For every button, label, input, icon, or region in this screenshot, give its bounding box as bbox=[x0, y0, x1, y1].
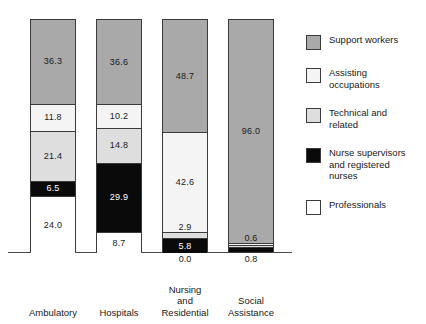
below-axis-value-social-assistance: 0.8 bbox=[228, 254, 274, 264]
segment-value-label: 11.8 bbox=[44, 113, 62, 122]
legend-label-line: Support workers bbox=[329, 34, 398, 46]
nurse-supervisors-swatch bbox=[306, 148, 321, 163]
segment-assisting-occupations-nursing-and-residential: 42.6 bbox=[163, 133, 207, 232]
bar-social-assistance: 96.00.6 bbox=[228, 19, 274, 252]
legend-item-support-workers[interactable]: Support workers bbox=[306, 34, 424, 50]
segment-value-label: 8.7 bbox=[112, 239, 125, 248]
assisting-occupations-swatch bbox=[306, 68, 321, 83]
category-label-line: Nursing bbox=[142, 284, 228, 296]
legend-item-label: Professionals bbox=[329, 199, 386, 211]
legend-item-professionals[interactable]: Professionals bbox=[306, 199, 424, 215]
segment-value-label: 2.9 bbox=[178, 223, 191, 232]
legend-item-label: Support workers bbox=[329, 34, 398, 46]
segment-professionals-ambulatory: 24.0 bbox=[31, 197, 75, 253]
segment-nurse-supervisors-hospitals: 29.9 bbox=[97, 164, 141, 234]
legend-label-line: nurses bbox=[329, 170, 406, 182]
segment-value-label: 36.6 bbox=[110, 58, 128, 67]
bar-hospitals: 36.610.214.829.98.7 bbox=[96, 19, 142, 252]
segment-nurse-supervisors-ambulatory: 6.5 bbox=[31, 182, 75, 197]
legend-label-line: occupations bbox=[329, 79, 380, 91]
category-label-line: Social bbox=[208, 295, 294, 307]
segment-value-label: 6.5 bbox=[46, 184, 59, 193]
bar-nursing-and-residential: 48.742.62.95.8 bbox=[162, 19, 208, 252]
segment-nurse-supervisors-nursing-and-residential: 5.8 bbox=[163, 239, 207, 253]
bar-ambulatory: 36.311.821.46.524.0 bbox=[30, 19, 76, 252]
segment-value-label: 96.0 bbox=[242, 127, 260, 136]
segment-value-label: 14.8 bbox=[110, 141, 128, 150]
segment-professionals-hospitals: 8.7 bbox=[97, 233, 141, 253]
legend-item-label: Technical andrelated bbox=[329, 107, 387, 130]
legend-label-line: Nurse supervisors bbox=[329, 147, 406, 159]
support-workers-swatch bbox=[306, 35, 321, 50]
below-axis-value-nursing-and-residential: 0.0 bbox=[162, 254, 208, 264]
plot-area: 36.311.821.46.524.036.610.214.829.98.748… bbox=[0, 0, 300, 324]
segment-support-workers-hospitals: 36.6 bbox=[97, 20, 141, 105]
segment-value-label: 24.0 bbox=[44, 221, 62, 230]
segment-technical-and-related-ambulatory: 21.4 bbox=[31, 132, 75, 182]
category-label-line: Assistance bbox=[208, 307, 294, 319]
segment-support-workers-nursing-and-residential: 48.7 bbox=[163, 20, 207, 133]
legend-label-line: Professionals bbox=[329, 199, 386, 211]
chart-legend: Support workersAssistingoccupationsTechn… bbox=[306, 34, 424, 232]
segment-support-workers-ambulatory: 36.3 bbox=[31, 20, 75, 105]
legend-label-line: Assisting bbox=[329, 67, 380, 79]
legend-label-line: and registered bbox=[329, 159, 406, 171]
segment-value-label: 5.8 bbox=[178, 242, 191, 251]
segment-value-label: 42.6 bbox=[176, 178, 194, 187]
segment-value-label: 0.6 bbox=[244, 234, 257, 243]
professionals-swatch bbox=[306, 200, 321, 215]
stacked-bar-chart: 36.311.821.46.524.036.610.214.829.98.748… bbox=[0, 0, 426, 324]
legend-item-label: Assistingoccupations bbox=[329, 67, 380, 90]
segment-value-label: 29.9 bbox=[110, 193, 128, 202]
segment-value-label: 10.2 bbox=[110, 112, 128, 121]
segment-value-label: 21.4 bbox=[44, 152, 62, 161]
legend-label-line: related bbox=[329, 119, 387, 131]
segment-assisting-occupations-hospitals: 10.2 bbox=[97, 105, 141, 129]
technical-and-related-swatch bbox=[306, 108, 321, 123]
segment-assisting-occupations-ambulatory: 11.8 bbox=[31, 105, 75, 132]
segment-value-label: 36.3 bbox=[44, 57, 62, 66]
segment-value-label: 48.7 bbox=[176, 72, 194, 81]
legend-item-assisting-occupations[interactable]: Assistingoccupations bbox=[306, 67, 424, 90]
legend-item-nurse-supervisors[interactable]: Nurse supervisorsand registerednurses bbox=[306, 147, 424, 182]
segment-support-workers-social-assistance: 96.0 bbox=[229, 20, 273, 244]
segment-technical-and-related-nursing-and-residential: 2.9 bbox=[163, 233, 207, 240]
legend-label-line: Technical and bbox=[329, 107, 387, 119]
category-label-social-assistance: SocialAssistance bbox=[208, 295, 294, 318]
legend-item-technical-and-related[interactable]: Technical andrelated bbox=[306, 107, 424, 130]
legend-item-label: Nurse supervisorsand registerednurses bbox=[329, 147, 406, 182]
segment-technical-and-related-hospitals: 14.8 bbox=[97, 129, 141, 163]
